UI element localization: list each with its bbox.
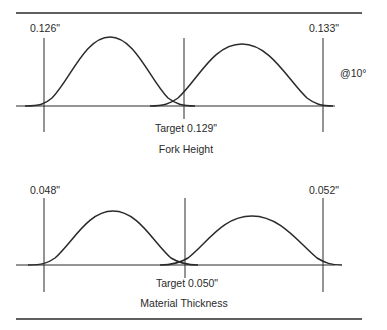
material-thickness-upper-label: 0.052" xyxy=(309,184,339,196)
material-thickness-lower-label: 0.048" xyxy=(30,184,60,196)
fork-height-annotation: @10° xyxy=(340,67,367,79)
fork-height-chart xyxy=(16,37,335,132)
fork-height-curve-high xyxy=(150,44,333,106)
material-thickness-curve-high xyxy=(160,216,342,265)
fork-height-curve-low xyxy=(25,37,195,106)
fork-height-target-label: Target 0.129" xyxy=(155,122,217,134)
material-thickness-target-label: Target 0.050" xyxy=(156,277,218,289)
material-thickness-curve-low xyxy=(28,211,198,265)
fork-height-title: Fork Height xyxy=(159,143,213,155)
fork-height-lower-label: 0.126" xyxy=(30,22,60,34)
material-thickness-title: Material Thickness xyxy=(140,297,227,309)
fork-height-upper-label: 0.133" xyxy=(309,22,339,34)
